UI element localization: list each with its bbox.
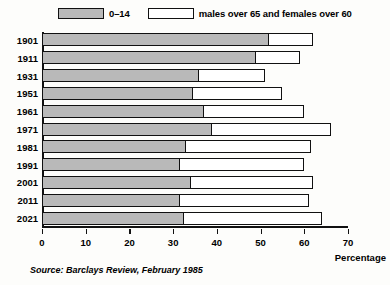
source-note: Source: Barclays Review, February 1985 (30, 265, 203, 275)
legend-swatch-children (58, 8, 104, 19)
bar-segment-children (42, 194, 180, 207)
x-axis-tick (348, 229, 349, 234)
x-axis-tick (261, 229, 262, 234)
bar-segment-elderly (256, 51, 300, 64)
y-axis-label: 2001 (17, 177, 38, 188)
chart-page: 0–14 males over 65 and females over 60 1… (0, 0, 390, 285)
bar-segment-children (42, 69, 199, 82)
bar-row: 1961 (42, 105, 304, 118)
x-axis-tick-label: 50 (255, 237, 266, 248)
bar-segment-elderly (191, 176, 313, 189)
bar-segment-elderly (269, 33, 313, 46)
bar-row: 1901 (42, 33, 313, 46)
bar-segment-children (42, 176, 191, 189)
x-axis-tick (42, 229, 43, 234)
x-axis-tick-label: 20 (124, 237, 135, 248)
y-axis-label: 1911 (17, 52, 38, 63)
x-axis-tick (86, 229, 87, 234)
y-axis-label: 1931 (17, 70, 38, 81)
plot-area: 1901191119311951196119711981199120012011… (42, 32, 348, 228)
bar-row: 2021 (42, 212, 322, 225)
bar-segment-children (42, 51, 256, 64)
x-axis-title: Percentage (335, 252, 386, 263)
bar-segment-elderly (204, 105, 305, 118)
x-axis-tick-label: 70 (343, 237, 354, 248)
bar-row: 1991 (42, 158, 304, 171)
bar-segment-elderly (193, 87, 283, 100)
bar-segment-children (42, 140, 186, 153)
chart-legend: 0–14 males over 65 and females over 60 (58, 8, 352, 19)
bar-row: 1971 (42, 123, 331, 136)
x-axis-tick (217, 229, 218, 234)
bar-segment-children (42, 212, 184, 225)
legend-entry-elderly: males over 65 and females over 60 (148, 8, 352, 19)
y-axis-label: 2011 (17, 195, 38, 206)
bar-row: 1951 (42, 87, 282, 100)
bar-segment-children (42, 123, 212, 136)
y-axis-label: 1981 (17, 141, 38, 152)
bar-segment-children (42, 105, 204, 118)
x-axis-tick-label: 30 (168, 237, 179, 248)
x-axis-tick-label: 60 (299, 237, 310, 248)
x-axis-tick-label: 40 (212, 237, 223, 248)
bar-segment-elderly (184, 212, 322, 225)
x-axis-tick-label: 10 (80, 237, 91, 248)
bar-segment-elderly (186, 140, 311, 153)
bar-row: 1981 (42, 140, 311, 153)
bar-row: 1911 (42, 51, 300, 64)
bar-row: 1931 (42, 69, 265, 82)
bar-segment-elderly (199, 69, 265, 82)
legend-entry-children: 0–14 (58, 8, 130, 19)
x-axis-tick (129, 229, 130, 234)
x-axis-tick (173, 229, 174, 234)
x-axis-tick-label: 0 (39, 237, 44, 248)
bar-row: 2011 (42, 194, 309, 207)
y-axis-label: 1971 (17, 124, 38, 135)
y-axis-label: 1901 (17, 34, 38, 45)
legend-label-children: 0–14 (109, 8, 130, 19)
y-axis-label: 1961 (17, 106, 38, 117)
bar-segment-elderly (212, 123, 330, 136)
bar-segment-children (42, 158, 180, 171)
legend-label-elderly: males over 65 and females over 60 (199, 8, 352, 19)
y-axis-label: 2021 (17, 213, 38, 224)
bar-row: 2001 (42, 176, 313, 189)
bar-segment-elderly (180, 194, 309, 207)
y-axis-label: 1951 (17, 88, 38, 99)
y-axis-label: 1991 (17, 159, 38, 170)
x-axis-tick (304, 229, 305, 234)
legend-swatch-elderly (148, 8, 194, 19)
bar-segment-children (42, 87, 193, 100)
x-axis-line (42, 226, 348, 228)
bar-segment-elderly (180, 158, 305, 171)
bar-segment-children (42, 33, 269, 46)
